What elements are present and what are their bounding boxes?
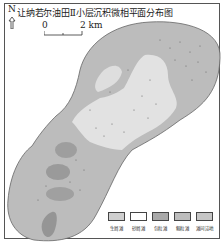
map-title: 让纳若尔油田Ⅱ小层沉积微相平面分布图 (17, 6, 173, 19)
north-arrow-icon (8, 17, 16, 29)
scale-start: 0 (42, 20, 48, 30)
legend-item: 滩间洼地 (194, 212, 215, 231)
legend-swatch (174, 212, 191, 221)
legend-swatch (152, 212, 169, 221)
scale-line (44, 31, 84, 37)
legend-item: 鲕粒滩 (172, 212, 193, 231)
legend-item: 砂屑滩 (128, 212, 149, 231)
facies-patch (46, 187, 74, 201)
scale-end: 2 km (80, 20, 103, 30)
facies-patch (55, 142, 77, 158)
legend-swatch (196, 212, 213, 221)
facies-patch (46, 164, 70, 180)
legend-item: 生屑滩 (106, 212, 127, 231)
legend-swatch (130, 212, 147, 221)
legend-swatch (108, 212, 125, 221)
legend-item: 包粒滩 (150, 212, 171, 231)
facies-map (0, 0, 224, 243)
